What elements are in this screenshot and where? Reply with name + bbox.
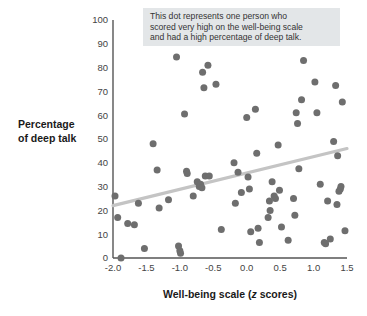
y-tick-label: 100 (92, 14, 108, 25)
y-tick-label: 60 (97, 110, 108, 121)
x-tick-label: -1.5 (138, 262, 154, 273)
scatter-dot (269, 178, 276, 185)
x-tick-label: 1.0 (307, 262, 320, 273)
y-tick-label: 70 (97, 86, 108, 97)
scatter-dot (311, 78, 318, 85)
scatter-dot (276, 187, 283, 194)
scatter-dot (298, 96, 305, 103)
scatter-dot (200, 84, 207, 91)
scatter-dot (238, 189, 245, 196)
y-tick-label: 10 (97, 229, 108, 240)
scatter-dot (150, 140, 157, 147)
y-tick-label: 20 (97, 205, 108, 216)
y-axis-title-line-1: Percentage (18, 118, 75, 130)
annotation-callout: This dot represents one person who score… (143, 8, 340, 46)
scatter-plot-figure: This dot represents one person who score… (0, 0, 367, 316)
scatter-dot (246, 185, 253, 192)
x-tick-label: 0.5 (274, 262, 287, 273)
scatter-dot (295, 165, 302, 172)
scatter-dot (330, 138, 337, 145)
scatter-dot (154, 166, 161, 173)
scatter-dot (341, 227, 348, 234)
scatter-dot (300, 57, 307, 64)
scatter-dot (212, 81, 219, 88)
scatter-dot (285, 237, 292, 244)
x-axis-title: Well-being scale (z scores) (163, 288, 297, 300)
scatter-dot (327, 235, 334, 242)
scatter-dot (156, 205, 163, 212)
y-tick-label: 30 (97, 181, 108, 192)
scatter-dot (267, 207, 274, 214)
scatter-dot (131, 221, 138, 228)
y-tick-label: 40 (97, 157, 108, 168)
scatter-dot (181, 111, 188, 118)
scatter-dot (293, 109, 300, 116)
scatter-dot (333, 201, 340, 208)
scatter-dot (114, 214, 121, 221)
scatter-dot (334, 152, 341, 159)
scatter-dot (252, 106, 259, 113)
scatter-dot (232, 200, 239, 207)
scatter-dot (278, 224, 285, 231)
scatter-dot (265, 214, 272, 221)
scatter-dot (255, 225, 262, 232)
scatter-dot (290, 195, 297, 202)
scatter-dot (218, 226, 225, 233)
x-tick-label: -0.5 (205, 262, 221, 273)
scatter-dot (204, 62, 211, 69)
scatter-dot (165, 196, 172, 203)
scatter-dot (184, 170, 191, 177)
scatter-dot (112, 193, 119, 200)
y-tick-label: 50 (97, 133, 108, 144)
scatter-dot (272, 195, 279, 202)
scatter-dot (317, 181, 324, 188)
scatter-dot (337, 183, 344, 190)
scatter-dot (206, 172, 213, 179)
x-tick-label: 0.0 (240, 262, 253, 273)
scatter-dot (124, 220, 131, 227)
y-axis-title-line-2: of deep talk (18, 132, 77, 144)
annotation-line-3: and had a high percentage of deep talk. (150, 32, 301, 42)
scatter-dot (294, 120, 301, 127)
x-tick-label: -2.0 (105, 262, 121, 273)
scatter-dot (135, 200, 142, 207)
scatter-dot (243, 114, 250, 121)
scatter-dot (339, 99, 346, 106)
scatter-dot (291, 212, 298, 219)
scatter-dot (199, 69, 206, 76)
scatter-dot (231, 159, 238, 166)
scatter-dot (118, 255, 125, 262)
scatter-dot (247, 228, 254, 235)
y-tick-label: 90 (97, 38, 108, 49)
scatter-dot (275, 141, 282, 148)
y-tick-label: 80 (97, 62, 108, 73)
scatter-dot (256, 239, 263, 246)
scatter-dot (141, 245, 148, 252)
annotation-line-2: scored very high on the well-being scale (150, 22, 303, 32)
x-tick-label: -1.0 (172, 262, 188, 273)
scatter-dot (190, 193, 197, 200)
scatter-dot (235, 169, 242, 176)
scatter-dot (332, 82, 339, 89)
scatter-dot (177, 250, 184, 257)
chart-page: This dot represents one person who score… (0, 0, 367, 316)
scatter-dot (245, 174, 252, 181)
annotation-line-1: This dot represents one person who (150, 11, 287, 21)
scatter-dot (173, 53, 180, 60)
scatter-dot (253, 150, 260, 157)
scatter-dot (198, 184, 205, 191)
x-tick-label: 1.5 (340, 262, 353, 273)
scatter-dot (324, 197, 331, 204)
scatter-dot (313, 109, 320, 116)
